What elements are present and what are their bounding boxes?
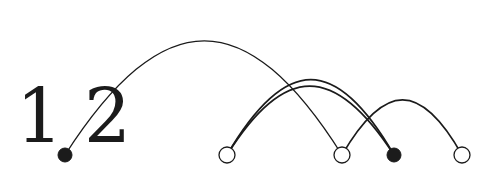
graph-node-open <box>334 147 350 163</box>
graph-node-open <box>454 147 470 163</box>
section-number-label: 12 <box>16 78 132 154</box>
figure-container: 12 <box>0 0 493 176</box>
graph-node-filled <box>387 148 401 162</box>
section-number-second-digit: 2 <box>84 78 132 154</box>
section-number-first-digit: 1 <box>16 78 64 154</box>
graph-node-open <box>219 147 235 163</box>
arc-edge <box>227 86 394 155</box>
